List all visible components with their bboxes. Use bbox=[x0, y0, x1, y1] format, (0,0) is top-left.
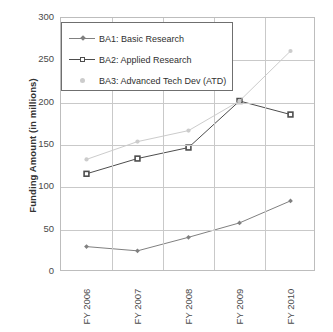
data-point bbox=[84, 171, 89, 176]
legend-label: BA1: Basic Research bbox=[99, 34, 184, 44]
chart-legend: BA1: Basic ResearchBA2: Applied Research… bbox=[61, 22, 233, 91]
series-line bbox=[87, 201, 291, 251]
y-axis-tick-label: 100 bbox=[20, 181, 54, 191]
data-point bbox=[135, 156, 140, 161]
horizontal-gridline bbox=[61, 103, 314, 104]
x-axis-tick-labels: FY 2006FY 2007FY 2008FY 2009FY 2010 bbox=[60, 271, 315, 332]
data-point bbox=[237, 220, 242, 225]
legend-marker bbox=[80, 78, 85, 83]
y-axis-tick-label: 200 bbox=[20, 97, 54, 107]
y-axis-tick-label: 0 bbox=[20, 266, 54, 276]
data-point bbox=[84, 157, 88, 161]
series-2 bbox=[84, 99, 293, 177]
x-axis-tick-label: FY 2009 bbox=[233, 277, 244, 332]
legend-swatch-diamond-icon bbox=[69, 33, 95, 45]
horizontal-gridline bbox=[61, 230, 314, 231]
y-axis-tick-label: 250 bbox=[20, 54, 54, 64]
y-axis-tick-label: 150 bbox=[20, 139, 54, 149]
vertical-gridline bbox=[265, 18, 266, 270]
series-1 bbox=[84, 198, 293, 253]
legend-item: BA3: Advanced Tech Dev (ATD) bbox=[62, 70, 232, 91]
line-chart: Funding Amount (in millions) 05010015020… bbox=[0, 0, 333, 332]
y-axis-tick-labels: 050100150200250300 bbox=[18, 0, 54, 332]
x-axis-tick-label: FY 2010 bbox=[284, 277, 295, 332]
legend-label: BA2: Applied Research bbox=[99, 55, 192, 65]
legend-label: BA3: Advanced Tech Dev (ATD) bbox=[99, 76, 226, 86]
x-axis-tick-label: FY 2007 bbox=[131, 277, 142, 332]
data-point bbox=[288, 112, 293, 117]
x-axis-tick-label: FY 2006 bbox=[80, 277, 91, 332]
legend-swatch-square-icon bbox=[69, 54, 95, 66]
x-axis-tick-label: FY 2008 bbox=[182, 277, 193, 332]
horizontal-gridline bbox=[61, 187, 314, 188]
series-line bbox=[87, 101, 291, 174]
y-axis-tick-label: 50 bbox=[20, 224, 54, 234]
data-point bbox=[288, 49, 292, 53]
data-point bbox=[84, 244, 89, 249]
data-point bbox=[186, 129, 190, 133]
data-point bbox=[135, 248, 140, 253]
legend-item: BA1: Basic Research bbox=[62, 28, 232, 49]
legend-swatch-circle-icon bbox=[69, 75, 95, 87]
y-axis-tick-label: 300 bbox=[20, 12, 54, 22]
data-point bbox=[135, 140, 139, 144]
data-point bbox=[186, 235, 191, 240]
horizontal-gridline bbox=[61, 145, 314, 146]
data-point bbox=[288, 198, 293, 203]
legend-item: BA2: Applied Research bbox=[62, 49, 232, 70]
legend-marker bbox=[80, 35, 86, 41]
legend-marker bbox=[80, 57, 85, 62]
